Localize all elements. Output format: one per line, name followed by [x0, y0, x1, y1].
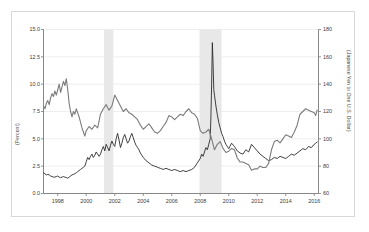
left-tick-label: 7.5 [17, 108, 40, 114]
x-tick-label: 2004 [131, 198, 155, 204]
right-tick-label: 140 [323, 81, 343, 87]
x-tick-label: 2012 [245, 198, 269, 204]
right-tick-label: 60 [323, 190, 343, 196]
right-tick-label: 100 [323, 136, 343, 142]
x-tick-label: 2014 [274, 198, 298, 204]
x-tick-label: 2006 [160, 198, 184, 204]
data-series [44, 43, 318, 179]
right-tick-label: 160 [323, 54, 343, 60]
left-tick-label: 15.0 [17, 26, 40, 32]
right-tick-label: 180 [323, 26, 343, 32]
gridlines [44, 30, 319, 167]
x-tick-label: 2008 [188, 198, 212, 204]
right-tick-label: 80 [323, 163, 343, 169]
x-tick-label: 2002 [103, 198, 127, 204]
chart-screenshot: (Percent) (Japanese Yen to One U.S. Doll… [0, 0, 369, 232]
x-tick-label: 1998 [46, 198, 70, 204]
left-tick-label: 2.5 [17, 163, 40, 169]
left-tick-label: 12.5 [17, 54, 40, 60]
yen-series [44, 79, 318, 171]
left-tick-label: 10.0 [17, 81, 40, 87]
right-tick-label: 120 [323, 108, 343, 114]
percent-series [44, 43, 318, 179]
right-axis-title: (Japanese Yen to One U.S. Dollar) [346, 50, 352, 131]
x-tick-label: 2010 [217, 198, 241, 204]
left-tick-label: 0.0 [17, 190, 40, 196]
x-tick-label: 2016 [302, 198, 326, 204]
left-tick-label: 5.0 [17, 136, 40, 142]
left-axis-title: (Percent) [14, 123, 20, 145]
x-tick-label: 2000 [74, 198, 98, 204]
